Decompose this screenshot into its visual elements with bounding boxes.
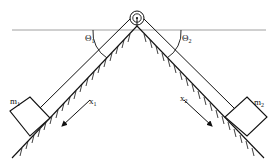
x2-label: x2	[180, 93, 188, 104]
theta2-label: Θ2	[182, 33, 192, 44]
mass1-label: m1	[10, 96, 20, 107]
x1-label: x1	[89, 96, 97, 107]
x1-arrow	[62, 100, 90, 126]
incline-pulley-diagram: Θ1 Θ2 m1 m2 x1 x2	[0, 0, 277, 164]
right-string	[143, 18, 234, 108]
pulley-icon	[130, 11, 144, 27]
right-incline-surface	[137, 26, 264, 158]
mass2-label: m2	[254, 97, 264, 108]
left-incline-hatching	[20, 34, 130, 156]
right-incline-hatching	[144, 34, 254, 156]
left-incline-surface	[12, 26, 137, 158]
x2-arrow	[184, 100, 212, 126]
left-string	[40, 18, 131, 108]
